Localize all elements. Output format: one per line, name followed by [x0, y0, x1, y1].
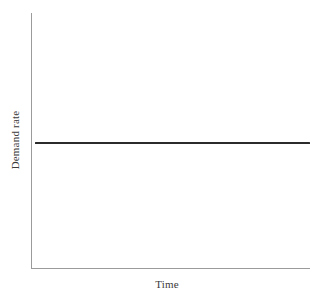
x-axis-title: Time [107, 278, 227, 290]
chart-figure: Demand rate Time [0, 0, 316, 306]
y-axis-title: Demand rate [9, 80, 23, 200]
demand-rate-series-line [35, 142, 310, 145]
x-axis-line [31, 268, 310, 269]
plot-area [32, 13, 310, 268]
